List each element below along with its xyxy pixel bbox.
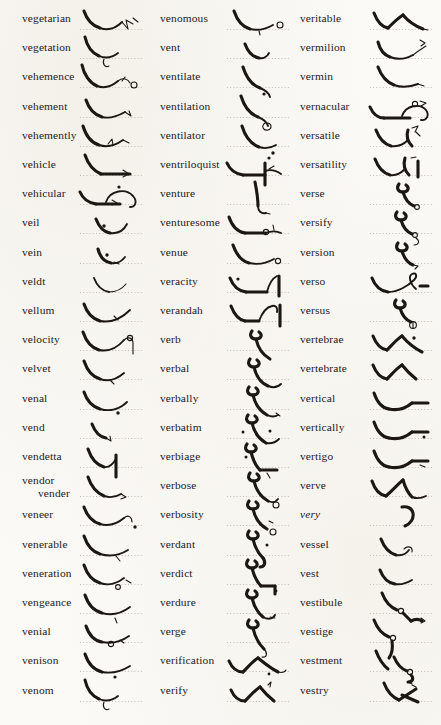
entry-word: velocity <box>22 333 60 346</box>
entry-word-alternate: vender <box>22 487 70 500</box>
entry-word: venom <box>22 684 54 697</box>
entry-word: verve <box>300 479 326 492</box>
entry-word: velvet <box>22 362 51 375</box>
entry-word: venial <box>22 625 51 638</box>
entry-word: veldt <box>22 275 46 288</box>
entry-word: venerable <box>22 538 68 551</box>
entry-word: vestige <box>300 625 333 638</box>
entry-word: vehemence <box>22 70 75 83</box>
entry-word: vermilion <box>300 41 346 54</box>
dictionary-entry: venom <box>0 684 147 717</box>
entry-word: vegetarian <box>22 12 71 25</box>
entry-word: vehicular <box>22 187 66 200</box>
shorthand-outline <box>78 675 146 717</box>
entry-word: verse <box>300 187 325 200</box>
entry-word: very <box>300 508 320 521</box>
entry-word: versify <box>300 216 333 229</box>
entry-word: vestry <box>300 684 329 697</box>
entry-word: ventilator <box>160 129 205 142</box>
entry-word: vegetation <box>22 41 71 54</box>
entry-word: versatile <box>300 129 340 142</box>
dictionary-entry: verify <box>147 684 294 717</box>
entry-word: vestibule <box>300 596 342 609</box>
entry-word: venue <box>160 246 188 259</box>
column-3: veritablevermilionverminvernacularversat… <box>294 0 441 725</box>
entry-word: veil <box>22 216 40 229</box>
entry-word: verbal <box>160 362 189 375</box>
entry-word: vertebrae <box>300 333 344 346</box>
entry-word: venison <box>22 654 59 667</box>
entry-word: verbally <box>160 392 199 405</box>
entry-word: verdant <box>160 538 195 551</box>
entry-word: veritable <box>300 12 341 25</box>
entry-word: versatility <box>300 158 347 171</box>
entry-word: vest <box>300 567 319 580</box>
entry-word: verandah <box>160 304 203 317</box>
entry-word: versus <box>300 304 330 317</box>
entry-word: vertically <box>300 421 345 434</box>
entry-word: vein <box>22 246 42 259</box>
entry-word: vengeance <box>22 596 71 609</box>
entry-word: venture <box>160 187 195 200</box>
entry-word: veneer <box>22 508 53 521</box>
entry-word: vehicle <box>22 158 56 171</box>
entry-word: vermin <box>300 70 333 83</box>
entry-word: vendetta <box>22 450 62 463</box>
entry-word: venomous <box>160 12 208 25</box>
entry-word: veneration <box>22 567 72 580</box>
entry-word: venturesome <box>160 216 220 229</box>
entry-word: verbatim <box>160 421 202 434</box>
entry-word: vehemently <box>22 129 77 142</box>
entry-word: ventilation <box>160 100 210 113</box>
entry-word: vertebrate <box>300 362 347 375</box>
entry-word: verbiage <box>160 450 200 463</box>
entry-word: vertical <box>300 392 335 405</box>
entry-word: verdure <box>160 596 196 609</box>
entry-word: verify <box>160 684 188 697</box>
column-2: venomousventventilateventilationventilat… <box>147 0 294 725</box>
entry-word: vestment <box>300 654 342 667</box>
entry-word: verge <box>160 625 186 638</box>
entry-word: verbosity <box>160 508 204 521</box>
entry-word: vessel <box>300 538 329 551</box>
dictionary-entry: vestry <box>294 684 441 717</box>
entry-word: verb <box>160 333 181 346</box>
entry-word: venal <box>22 392 47 405</box>
entry-word: vend <box>22 421 45 434</box>
shorthand-outline <box>225 675 293 717</box>
column-1: vegetarianvegetationvehemencevehementveh… <box>0 0 147 725</box>
entry-word: vernacular <box>300 100 350 113</box>
entry-word: vertigo <box>300 450 333 463</box>
entry-word: ventilate <box>160 70 201 83</box>
entry-word: vellum <box>22 304 55 317</box>
entry-word: vent <box>160 41 180 54</box>
entry-word: version <box>300 246 335 259</box>
entry-word: verification <box>160 654 214 667</box>
shorthand-outline <box>368 675 436 717</box>
entry-word: verso <box>300 275 325 288</box>
entry-word: verbose <box>160 479 196 492</box>
entry-word: ventriloquist <box>160 158 220 171</box>
entry-word: veracity <box>160 275 198 288</box>
entry-word: vendorvender <box>22 474 70 500</box>
entry-word: vehement <box>22 100 67 113</box>
dictionary-page: vegetarianvegetationvehemencevehementveh… <box>0 0 441 725</box>
entry-word: verdict <box>160 567 193 580</box>
